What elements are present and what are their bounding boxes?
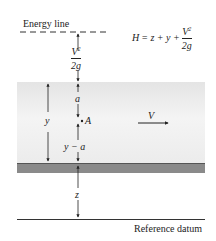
equation-rhs: = z + y + xyxy=(141,32,180,43)
energy-line-label: Energy line xyxy=(23,18,69,29)
equation-velocity-head: V2 2g xyxy=(182,24,192,51)
point-a-marker xyxy=(81,120,83,122)
reference-datum-label: Reference datum xyxy=(134,223,202,234)
depth-label: y xyxy=(45,115,49,126)
velocity-head-den: 2g xyxy=(71,60,81,71)
equation-frac-den: 2g xyxy=(182,40,192,51)
velocity-label: V xyxy=(148,110,154,121)
point-a-label: A xyxy=(85,115,91,126)
y-minus-a-label: y − a xyxy=(64,141,85,152)
a-label: a xyxy=(75,93,80,104)
equation-frac-exp: 2 xyxy=(188,26,191,32)
velocity-head-exp: 2 xyxy=(78,46,81,52)
energy-equation: H = z + y + V2 2g xyxy=(132,24,192,51)
equation-lhs: H xyxy=(132,32,139,43)
elevation-label: z xyxy=(75,189,79,200)
velocity-head-label: V2 2g xyxy=(71,44,81,71)
